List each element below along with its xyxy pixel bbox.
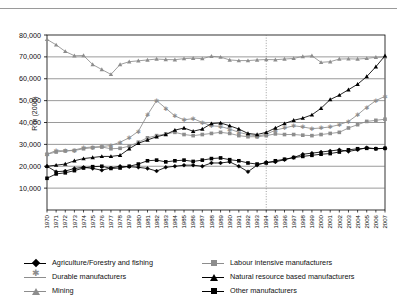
x-tick-label: 1980 <box>135 214 142 228</box>
x-tick-label: 1983 <box>162 214 169 228</box>
x-tick-label: 1997 <box>290 214 297 228</box>
legend-label: Agriculture/Forestry and fishing <box>52 258 153 268</box>
legend-label: Labour intensive manufacturers <box>230 258 332 268</box>
x-tick-label: 1996 <box>281 214 288 228</box>
chart-screenshot: R'm (2000) 10,00020,00030,00040,00050,00… <box>0 0 397 307</box>
x-tick-label: 2006 <box>372 214 379 228</box>
legend-item-mining: Mining <box>24 284 153 298</box>
svg-text:✱: ✱ <box>282 124 287 131</box>
x-tick-label: 1978 <box>116 214 123 228</box>
x-tick-label: 1991 <box>235 214 242 228</box>
y-tick-label: 20,000 <box>19 162 41 171</box>
x-tick-label: 1981 <box>144 214 151 228</box>
svg-text:✱: ✱ <box>117 139 122 146</box>
x-tick-label: 1987 <box>198 214 205 228</box>
x-tick-label: 1993 <box>253 214 260 228</box>
svg-text:✱: ✱ <box>172 112 177 119</box>
x-tick-label: 1990 <box>226 214 233 228</box>
svg-text:✱: ✱ <box>145 111 150 118</box>
x-tick-label: 1973 <box>71 214 78 228</box>
star-marker-icon <box>24 272 46 283</box>
x-tick-label: 1975 <box>89 214 96 228</box>
y-tick-label: 80,000 <box>19 31 41 40</box>
x-tick-label: 1979 <box>125 214 132 228</box>
svg-text:✱: ✱ <box>382 93 387 100</box>
legend-item-natural-resource: Natural resource based manufacturers <box>202 270 355 284</box>
x-tick-label: 1982 <box>153 214 160 228</box>
svg-text:✱: ✱ <box>364 104 369 111</box>
line-chart-svg: 10,00020,00030,00040,00050,00060,00070,0… <box>0 14 397 246</box>
svg-text:✱: ✱ <box>291 122 296 129</box>
legend-column-right: Labour intensive manufacturers Natural r… <box>202 256 355 298</box>
x-tick-label: 2003 <box>345 214 352 228</box>
triangle-marker-icon <box>202 272 224 283</box>
legend-item-durable: Durable manufacturers <box>24 270 153 284</box>
legend-label: Natural resource based manufacturers <box>230 272 355 282</box>
x-tick-label: 1999 <box>308 214 315 228</box>
x-tick-label: 1994 <box>262 214 269 228</box>
x-tick-label: 2005 <box>363 214 370 228</box>
y-axis-label: R'm (2000) <box>31 79 38 149</box>
legend-item-agriculture: Agriculture/Forestry and fishing <box>24 256 153 270</box>
x-tick-label: 1984 <box>171 214 178 228</box>
svg-text:✱: ✱ <box>191 115 196 122</box>
svg-text:✱: ✱ <box>346 118 351 125</box>
triangle-marker-icon <box>24 286 46 297</box>
y-tick-label: 70,000 <box>19 52 41 61</box>
square-marker-icon <box>202 286 224 297</box>
svg-text:✱: ✱ <box>355 111 360 118</box>
legend-label: Other manufacturers <box>230 286 297 296</box>
svg-text:✱: ✱ <box>318 124 323 131</box>
svg-text:✱: ✱ <box>154 97 159 104</box>
x-tick-label: 2002 <box>336 214 343 228</box>
legend-column-left: Agriculture/Forestry and fishing Durable… <box>24 256 153 298</box>
x-tick-label: 1974 <box>80 214 87 228</box>
svg-text:✱: ✱ <box>127 134 132 141</box>
square-marker-icon <box>202 258 224 269</box>
x-tick-label: 2004 <box>354 214 361 228</box>
x-tick-label: 2007 <box>381 214 388 228</box>
x-tick-label: 1976 <box>98 214 105 228</box>
legend-label: Mining <box>52 286 74 296</box>
legend-item-other: Other manufacturers <box>202 284 355 298</box>
x-tick-label: 1977 <box>107 214 114 228</box>
svg-text:✱: ✱ <box>181 116 186 123</box>
x-tick-label: 1992 <box>244 214 251 228</box>
svg-text:✱: ✱ <box>309 125 314 132</box>
svg-text:✱: ✱ <box>163 105 168 112</box>
x-tick-label: 1985 <box>180 214 187 228</box>
chart-legend: Agriculture/Forestry and fishing Durable… <box>0 256 397 307</box>
y-tick-label: 10,000 <box>19 184 41 193</box>
x-tick-label: 1989 <box>217 214 224 228</box>
x-tick-label: 1986 <box>189 214 196 228</box>
header-divider <box>0 8 397 9</box>
svg-text:✱: ✱ <box>200 119 205 126</box>
svg-text:✱: ✱ <box>136 128 141 135</box>
x-tick-label: 2000 <box>317 214 324 228</box>
x-tick-label: 1972 <box>61 214 68 228</box>
svg-text:✱: ✱ <box>300 123 305 130</box>
x-tick-label: 1995 <box>272 214 279 228</box>
diamond-marker-icon <box>24 258 46 269</box>
x-tick-label: 1998 <box>299 214 306 228</box>
x-tick-label: 1988 <box>208 214 215 228</box>
legend-item-labour-intensive: Labour intensive manufacturers <box>202 256 355 270</box>
legend-label: Durable manufacturers <box>52 272 126 282</box>
svg-text:✱: ✱ <box>337 121 342 128</box>
cropped-caption <box>4 0 124 7</box>
svg-text:✱: ✱ <box>373 97 378 104</box>
chart-plot-area: R'm (2000) 10,00020,00030,00040,00050,00… <box>0 14 397 246</box>
x-tick-label: 1970 <box>43 214 50 228</box>
x-tick-label: 2001 <box>326 214 333 228</box>
x-tick-label: 1971 <box>52 214 59 228</box>
svg-text:✱: ✱ <box>328 123 333 130</box>
